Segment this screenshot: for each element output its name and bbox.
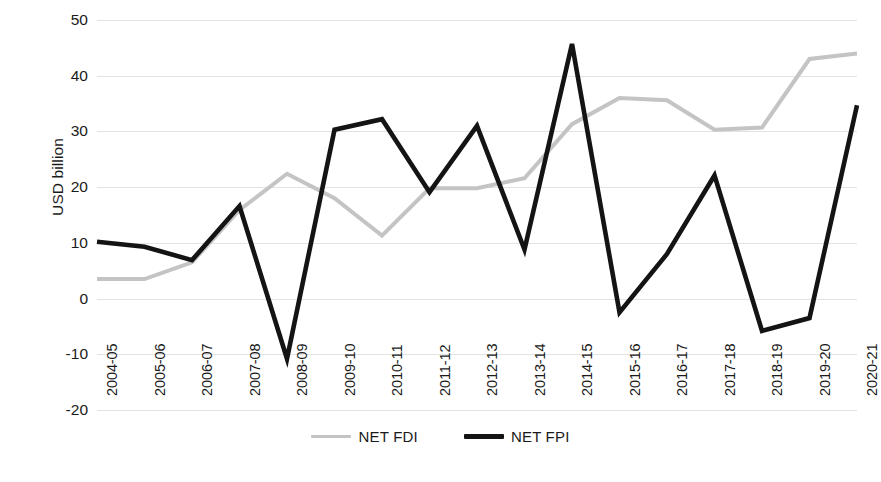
gridline xyxy=(97,410,857,411)
legend-entry[interactable]: NET FDI xyxy=(311,428,417,445)
legend-swatch-icon xyxy=(311,435,351,439)
x-axis-tick-label: 2018-19 xyxy=(769,310,785,396)
y-axis-tick-label: 30 xyxy=(40,122,88,140)
legend-label: NET FDI xyxy=(358,428,417,445)
x-axis-tick-label: 2011-12 xyxy=(437,310,453,396)
x-axis-tick-label: 2012-13 xyxy=(484,310,500,396)
x-axis-tick-label: 2009-10 xyxy=(342,310,358,396)
legend-swatch-icon xyxy=(464,434,504,439)
chart-container: USD billion 50403020100-10-20 2004-05200… xyxy=(0,0,881,482)
x-axis-tick-labels: 2004-052005-062006-072007-082008-092009-… xyxy=(97,310,857,410)
y-axis-tick-label: -10 xyxy=(40,345,88,363)
x-axis-tick-label: 2013-14 xyxy=(532,310,548,396)
x-axis-tick-label: 2019-20 xyxy=(817,310,833,396)
x-axis-tick-label: 2015-16 xyxy=(627,310,643,396)
x-axis-tick-label: 2005-06 xyxy=(152,310,168,396)
x-axis-tick-label: 2014-15 xyxy=(579,310,595,396)
x-axis-tick-label: 2008-09 xyxy=(294,310,310,396)
legend-label: NET FPI xyxy=(511,428,570,445)
x-axis-tick-label: 2016-17 xyxy=(674,310,690,396)
y-axis-tick-label: 0 xyxy=(40,290,88,308)
chart-legend: NET FDINET FPI xyxy=(0,428,881,445)
x-axis-tick-label: 2007-08 xyxy=(247,310,263,396)
series-line-net-fdi xyxy=(97,53,857,279)
x-axis-tick-label: 2017-18 xyxy=(722,310,738,396)
y-axis-tick-label: 50 xyxy=(40,11,88,29)
y-axis-tick-label: -20 xyxy=(40,401,88,419)
x-axis-tick-label: 2006-07 xyxy=(199,310,215,396)
legend-entry[interactable]: NET FPI xyxy=(464,428,570,445)
y-axis-tick-label: 20 xyxy=(40,178,88,196)
x-axis-tick-label: 2020-21 xyxy=(864,310,880,396)
y-axis-tick-label: 10 xyxy=(40,234,88,252)
y-axis-tick-labels: 50403020100-10-20 xyxy=(40,20,88,410)
y-axis-tick-label: 40 xyxy=(40,67,88,85)
x-axis-tick-label: 2004-05 xyxy=(104,310,120,396)
x-axis-tick-label: 2010-11 xyxy=(389,310,405,396)
